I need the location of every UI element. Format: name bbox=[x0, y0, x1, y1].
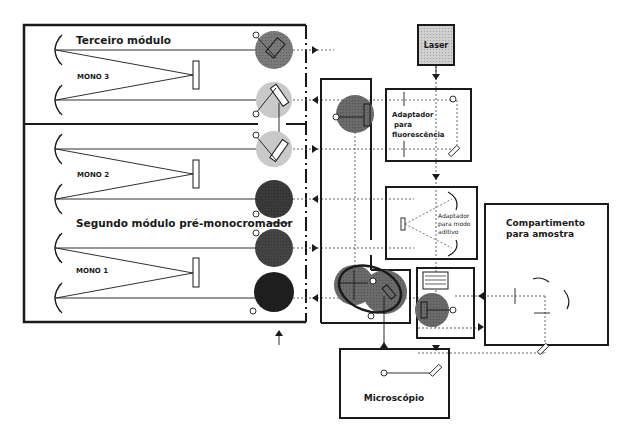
arrow-left-icon bbox=[478, 292, 484, 300]
mono1-label: MONO 1 bbox=[76, 267, 108, 275]
additive-adapter-line3: aditivo bbox=[438, 228, 459, 235]
turret-icon bbox=[254, 272, 294, 312]
mirror-icon bbox=[448, 192, 457, 210]
middle-turret bbox=[333, 95, 374, 133]
additive-adapter-line2: para modo bbox=[438, 220, 471, 228]
grating-icon bbox=[193, 258, 199, 287]
fluorescence-adapter-line3: fluorescência bbox=[392, 131, 445, 139]
laser-box: Laser bbox=[418, 25, 454, 65]
arrow-right-icon bbox=[312, 145, 318, 153]
microscope-switch-turrets bbox=[332, 257, 407, 350]
mono3-label: MONO 3 bbox=[77, 73, 109, 81]
microscope-box: Microscópio bbox=[340, 349, 449, 418]
fluorescence-adapter-line1: Adaptador bbox=[392, 111, 434, 119]
mono2-label: MONO 2 bbox=[77, 171, 109, 179]
arrow-right-icon bbox=[312, 46, 318, 54]
fluorescence-adapter-line2: para bbox=[394, 121, 412, 129]
arrow-down-icon bbox=[432, 174, 440, 180]
mirror-icon bbox=[448, 240, 457, 256]
turret-icon bbox=[256, 131, 292, 167]
sample-compartment-line1: Compartimento bbox=[506, 218, 585, 228]
turrets bbox=[250, 31, 294, 314]
additive-adapter: Adaptador para modo aditivo bbox=[386, 187, 477, 259]
grating-icon bbox=[193, 61, 199, 89]
third-module-title: Terceiro módulo bbox=[76, 34, 171, 46]
arrow-down-icon bbox=[432, 74, 440, 80]
sample-compartment-line2: para amostra bbox=[506, 229, 574, 239]
mirror-icon bbox=[564, 290, 569, 309]
laser-label: Laser bbox=[424, 41, 449, 50]
microscope-label: Microscópio bbox=[364, 393, 425, 403]
grating-icon bbox=[193, 160, 199, 188]
arrow-left-icon bbox=[312, 195, 318, 203]
arrow-right-icon bbox=[312, 244, 318, 252]
arrow-up-icon bbox=[275, 330, 283, 336]
spectrometer-diagram: Terceiro módulo MONO 3 MONO 2 Segundo mó… bbox=[0, 0, 631, 438]
switching-box bbox=[415, 268, 474, 338]
additive-adapter-line1: Adaptador bbox=[438, 212, 470, 220]
mirror-icon bbox=[533, 278, 549, 282]
arrow-right-icon bbox=[478, 323, 484, 331]
sample-compartment: Compartimento para amostra bbox=[485, 204, 608, 355]
arrow-left-icon bbox=[312, 96, 318, 104]
arrow-left-icon bbox=[312, 294, 318, 302]
premono-module-title: Segundo módulo pré-monocromador bbox=[76, 217, 294, 229]
